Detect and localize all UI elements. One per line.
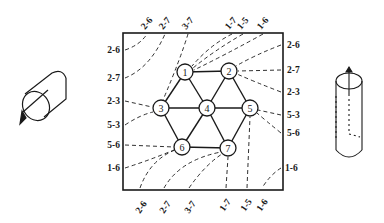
right-label: 5-6 xyxy=(287,128,300,138)
node-3: 3 xyxy=(153,100,169,116)
right-cylinder-bottom-arc xyxy=(336,150,362,157)
left-label: 2-3 xyxy=(107,96,120,106)
right-labels: 2-6 2-7 2-3 5-3 5-6 1-6 xyxy=(285,40,300,173)
right-label: 5-3 xyxy=(287,110,300,120)
bottom-label: 3-7 xyxy=(182,199,198,215)
node-2-label: 2 xyxy=(227,66,232,77)
top-label: 2-7 xyxy=(157,15,173,31)
right-cylinder-figure xyxy=(336,67,362,157)
left-label: 2-7 xyxy=(107,73,120,83)
right-cylinder-arrow-icon xyxy=(346,67,352,72)
top-label: 1-6 xyxy=(255,15,271,31)
bottom-labels: 2-6 2-7 3-7 1-7 1-5 1-6 xyxy=(133,197,270,215)
bottom-label: 1-5 xyxy=(238,197,254,213)
node-1: 1 xyxy=(177,64,193,80)
left-cylinder-top-edge xyxy=(25,71,66,94)
left-label: 5-6 xyxy=(107,140,120,150)
right-label: 1-6 xyxy=(285,163,298,173)
bottom-label: 2-6 xyxy=(133,199,149,215)
left-label: 2-6 xyxy=(107,45,120,55)
left-cylinder-figure xyxy=(17,71,66,125)
node-4-label: 4 xyxy=(205,103,210,114)
top-label: 3-7 xyxy=(180,15,196,31)
right-label: 2-6 xyxy=(287,40,300,50)
left-label: 5-3 xyxy=(107,120,120,130)
left-labels: 2-6 2-7 2-3 5-3 5-6 1-6 xyxy=(107,45,120,173)
node-5-label: 5 xyxy=(248,103,253,114)
bottom-label: 1-7 xyxy=(217,197,233,213)
right-label: 2-3 xyxy=(287,87,300,97)
top-labels: 2-6 2-7 3-7 1-7 1-5 1-6 xyxy=(139,15,271,31)
node-5: 5 xyxy=(242,100,258,116)
right-label: 2-7 xyxy=(287,65,300,75)
node-6-label: 6 xyxy=(180,142,185,153)
graph-nodes: 1 2 3 4 5 6 7 xyxy=(153,63,258,156)
top-label: 2-6 xyxy=(139,15,155,31)
bottom-label: 1-6 xyxy=(254,197,270,213)
left-cylinder-bottom-edge xyxy=(44,78,66,117)
left-label: 1-6 xyxy=(107,163,120,173)
bottom-label: 2-7 xyxy=(157,199,173,215)
top-label: 1-5 xyxy=(235,15,251,31)
node-2: 2 xyxy=(221,63,237,79)
node-3-label: 3 xyxy=(159,103,164,114)
node-7-label: 7 xyxy=(226,143,231,154)
node-1-label: 1 xyxy=(183,67,188,78)
node-6: 6 xyxy=(174,139,190,155)
node-4: 4 xyxy=(199,100,215,116)
node-7: 7 xyxy=(220,140,236,156)
graph-embedding-diagram: 1 2 3 4 5 6 7 2-6 2-7 2-3 5-3 xyxy=(0,0,384,223)
